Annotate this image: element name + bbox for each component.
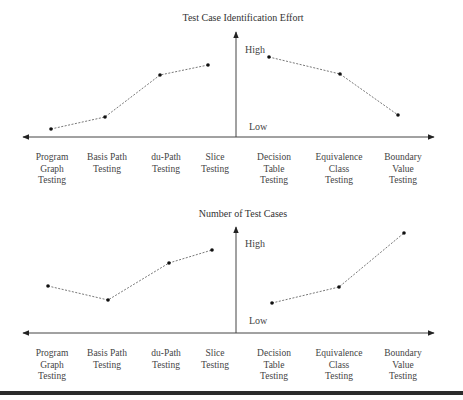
series-code-based-line [48,250,212,300]
chart-number-of-test-cases [23,227,434,333]
data-point [338,72,342,76]
x-category-label: BoundaryValueTesting [371,348,435,383]
data-point [158,73,162,77]
category-label-line: Testing [183,360,247,372]
data-point [402,231,406,235]
chart-title-number-of-test-cases: Number of Test Cases [199,208,287,219]
x-category-label: SliceTesting [183,348,247,371]
x-category-label: Basis PathTesting [75,348,139,371]
data-point [49,127,53,131]
category-label-line: Class [307,360,371,372]
x-category-label: BoundaryValueTesting [371,152,435,187]
category-label-line: Boundary [371,348,435,360]
category-label-line: Testing [371,175,435,187]
x-category-label: EquivalenceClassTesting [307,348,371,383]
category-label-line: Testing [20,371,84,383]
category-label-line: Decision [242,348,306,360]
category-label-line: Testing [307,371,371,383]
category-label-line: Testing [307,175,371,187]
y-high-label: High [245,238,265,249]
data-point [103,115,107,119]
category-label-line: Slice [183,152,247,164]
category-label-line: Equivalence [307,152,371,164]
data-point [267,55,271,59]
category-label-line: Testing [371,371,435,383]
series-specification-based-line [272,233,404,303]
y-low-label: Low [249,315,267,326]
data-point [396,113,400,117]
category-label-line: Testing [183,164,247,176]
data-point [106,298,110,302]
category-label-line: Testing [75,164,139,176]
category-label-line: Slice [183,348,247,360]
data-point [337,285,341,289]
category-label-line: Testing [20,175,84,187]
category-label-line: Testing [75,360,139,372]
y-high-label: High [245,44,265,55]
data-point [46,284,50,288]
category-label-line: Value [371,360,435,372]
chart-identification-effort [23,32,434,137]
chart-title-identification-effort: Test Case Identification Effort [182,12,303,23]
category-label-line: Value [371,164,435,176]
y-low-label: Low [249,121,267,132]
category-label-line: Basis Path [75,152,139,164]
x-category-label: SliceTesting [183,152,247,175]
category-label-line: Equivalence [307,348,371,360]
category-label-line: Table [242,164,306,176]
bottom-divider-bar [0,391,463,395]
category-label-line: Testing [242,175,306,187]
figure: Test Case Identification Effort High Low… [0,0,463,400]
data-point [210,248,214,252]
category-label-line: Table [242,360,306,372]
category-label-line: Boundary [371,152,435,164]
x-category-label: DecisionTableTesting [242,348,306,383]
category-label-line: Basis Path [75,348,139,360]
data-point [270,301,274,305]
x-category-label: Basis PathTesting [75,152,139,175]
category-label-line: Class [307,164,371,176]
data-point [206,63,210,67]
x-category-label: DecisionTableTesting [242,152,306,187]
series-specification-based-line [269,57,398,115]
plot-canvas [0,0,463,400]
data-point [167,261,171,265]
series-code-based-line [51,65,208,129]
category-label-line: Decision [242,152,306,164]
x-category-label: EquivalenceClassTesting [307,152,371,187]
category-label-line: Testing [242,371,306,383]
